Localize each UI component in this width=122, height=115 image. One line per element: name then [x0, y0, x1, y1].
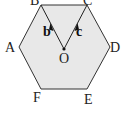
vertex-label-b: B	[30, 0, 39, 8]
vertex-label-f: F	[33, 90, 41, 105]
vertex-label-e: E	[84, 92, 93, 107]
vertex-label-d: D	[110, 40, 120, 55]
vector-label-c: c	[76, 24, 82, 39]
vector-label-b: b	[43, 24, 51, 39]
vertex-label-c: C	[83, 0, 92, 8]
hexagon-diagram: A B C D E F O b c	[0, 0, 122, 115]
vertex-label-a: A	[5, 40, 16, 55]
center-label-o: O	[59, 51, 69, 66]
